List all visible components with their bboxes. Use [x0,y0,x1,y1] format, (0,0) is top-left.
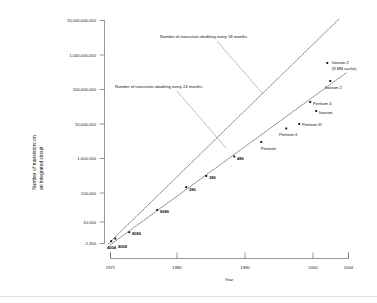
y-axis-title-line1: Number of transistors on [31,135,37,190]
annotation-24-months-text: Number of transistors doubling every 24 … [115,84,203,89]
y-tick-label-2300: 2,300 [86,241,97,246]
y-tick-label-100k: 100,000 [81,191,97,196]
annotation-24-months: Number of transistors doubling every 24 … [115,84,226,148]
data-point-pentium-4[interactable]: Pentium 4 [309,101,332,106]
data-label-itanium: Itanium [319,110,333,115]
x-axis-title: Year [225,277,234,282]
x-tick-label-1990: 1990 [240,265,250,270]
trend-line-24-month-doubling [110,73,346,245]
data-label-286: 286 [189,187,197,192]
y-tick-label-10m: 10,000,000 [75,122,97,127]
annotation-18-months-leader [217,41,263,94]
data-point-itanium-2[interactable]: Itanium 2 [325,80,343,90]
data-point-4004[interactable]: 4004 [107,240,117,249]
x-axis: 1971 1980 1990 2000 2004 Year [106,253,354,283]
data-label-8080: 8080 [132,231,142,236]
data-label-itanium-2-cache-line1: Itanium 2 [332,60,350,65]
data-dot-pentium-iii [298,123,300,125]
annotation-24-months-leader [177,91,226,148]
data-dot-itanium [315,110,317,112]
data-dot-pentium [260,141,262,143]
data-point-itanium[interactable]: Itanium [315,110,333,115]
y-tick-label-100m: 100,000,000 [73,87,97,92]
data-point-486[interactable]: 486 [233,156,244,161]
x-tick-label-2004: 2004 [344,265,354,270]
data-label-386: 386 [209,175,217,180]
y-axis: 10,000,000,000 1,000,000,000 100,000,000… [67,18,105,246]
y-tick-label-1m: 1,000,000 [77,156,96,161]
x-tick-label-1980: 1980 [172,265,182,270]
data-dot-itanium-2 [329,80,331,82]
y-axis-title: Number of transistors on an integrated c… [31,135,44,190]
data-dot-286 [185,186,187,188]
data-label-4004: 4004 [107,245,117,250]
data-point-386[interactable]: 386 [205,175,216,180]
data-label-itanium-2: Itanium 2 [325,85,343,90]
data-dot-8008 [114,238,116,240]
x-tick-label-1971: 1971 [106,265,116,270]
annotation-18-months-text: Number of transistors doubling every 18 … [160,34,248,39]
data-label-pentium-iii: Pentium III [302,122,322,127]
trend-line-18-month-doubling [108,19,339,244]
data-dot-8086 [156,209,158,211]
y-tick-label-10b: 10,000,000,000 [67,18,97,23]
data-label-486: 486 [237,156,245,161]
moores-law-chart-figure: 10,000,000,000 1,000,000,000 100,000,000… [0,0,377,303]
data-dot-486 [233,156,235,158]
data-point-pentium-iii[interactable]: Pentium III [298,122,321,127]
data-dot-4004 [110,240,112,242]
data-point-itanium-2-9mb-cache[interactable]: Itanium 2 (9 MB cache) [326,60,357,71]
data-dot-386 [205,175,207,177]
data-label-itanium-2-cache-line2: (9 MB cache) [332,66,357,71]
data-label-pentium-ii: Pentium II [279,132,297,137]
data-point-8008[interactable]: 8008 [114,238,128,249]
data-label-pentium: Pentium [261,146,277,151]
data-label-pentium-4: Pentium 4 [313,101,332,106]
data-point-8086[interactable]: 8086 [156,209,170,214]
data-label-8086: 8086 [160,209,170,214]
y-tick-label-1b: 1,000,000,000 [69,53,96,58]
data-dot-8080 [128,231,130,233]
y-axis-title-line2: an integrated circuit [38,146,44,190]
data-point-8080[interactable]: 8080 [128,231,142,236]
data-dot-itanium-2-9mb-cache [326,62,328,64]
data-point-pentium[interactable]: Pentium [260,141,276,151]
data-label-8008: 8008 [118,244,128,249]
data-dot-pentium-4 [309,101,311,103]
x-tick-label-2000: 2000 [308,265,318,270]
data-point-pentium-ii[interactable]: Pentium II [279,128,297,138]
chart-canvas: 10,000,000,000 1,000,000,000 100,000,000… [0,0,377,303]
y-tick-label-10k: 10,000 [83,220,96,225]
data-dot-pentium-ii [285,128,287,130]
